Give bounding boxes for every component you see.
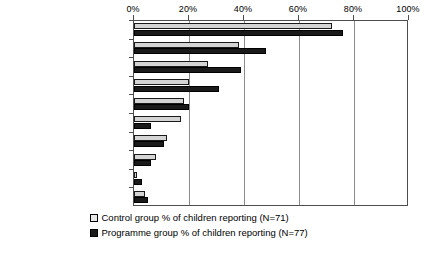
- bar-programme-7: [134, 160, 151, 166]
- legend-swatch-programme-icon: [90, 229, 98, 237]
- bar-programme-6: [134, 141, 164, 147]
- bar-control-4: [134, 98, 184, 104]
- legend-label-1: Programme group % of children reporting …: [102, 227, 308, 238]
- bar-programme-0: [134, 30, 343, 36]
- bar-control-3: [134, 79, 189, 85]
- bar-programme-5: [134, 123, 151, 129]
- bar-control-7: [134, 154, 156, 160]
- bar-control-9: [134, 191, 145, 197]
- bar-control-8: [134, 172, 137, 178]
- bar-control-6: [134, 135, 167, 141]
- plot-area: [133, 20, 408, 206]
- x-tick-label-80: 80%: [344, 4, 362, 14]
- legend-row-0: Control group % of children reporting (N…: [0, 210, 431, 225]
- x-tick-label-0: 0%: [126, 4, 139, 14]
- bar-programme-3: [134, 86, 219, 92]
- bar-control-2: [134, 61, 208, 67]
- x-tick-mark-100: [408, 15, 409, 20]
- bar-programme-2: [134, 67, 241, 73]
- bar-programme-4: [134, 104, 189, 110]
- x-tick-label-60: 60%: [289, 4, 307, 14]
- x-tick-label-40: 40%: [234, 4, 252, 14]
- bar-control-1: [134, 42, 239, 48]
- x-tick-label-20: 20%: [179, 4, 197, 14]
- bar-control-5: [134, 116, 181, 122]
- bar-control-0: [134, 23, 332, 29]
- x-tick-label-100: 100%: [396, 4, 419, 14]
- gridline-60: [299, 21, 300, 205]
- chart-legend: Control group % of children reporting (N…: [0, 210, 431, 240]
- bar-programme-1: [134, 48, 266, 54]
- bar-programme-9: [134, 197, 148, 203]
- legend-swatch-control-icon: [90, 214, 98, 222]
- bar-programme-8: [134, 179, 142, 185]
- bar-chart: 0%20%40%60%80%100% motherfathermother an…: [0, 0, 431, 253]
- legend-row-1: Programme group % of children reporting …: [0, 225, 431, 240]
- gridline-80: [354, 21, 355, 205]
- legend-label-0: Control group % of children reporting (N…: [102, 212, 289, 223]
